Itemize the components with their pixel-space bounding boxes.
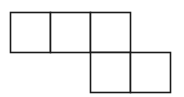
net-square-3	[91, 13, 131, 53]
net-square-4	[91, 53, 131, 93]
net-square-5	[131, 53, 171, 93]
net-square-1	[11, 13, 51, 53]
square-net-diagram	[0, 0, 184, 97]
net-square-2	[51, 13, 91, 53]
